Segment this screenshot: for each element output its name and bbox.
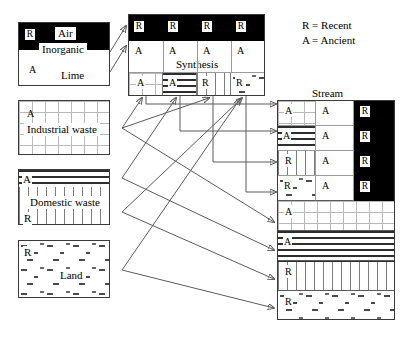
stream-upper-tag-1-2: A — [322, 106, 329, 116]
domestic-top-band — [19, 170, 109, 187]
stream-title: Stream — [312, 88, 343, 99]
synthesis-black-tag-4: R — [235, 20, 247, 33]
stream-upper-tag-2-2: A — [322, 131, 329, 141]
stream-lower-tag-3: R — [284, 265, 293, 278]
arrow-domestic-bottom-to-synthesis — [122, 98, 242, 212]
lime-label: Lime — [61, 70, 84, 81]
stream-box: A A R A A R R A R R A R A A R R — [277, 100, 395, 320]
arrow-syn1-to-stream1 — [146, 96, 276, 104]
air-tag-recent: R — [24, 28, 36, 41]
synthesis-divider-2 — [197, 41, 198, 73]
source-box-domestic-waste: A Domestic waste R — [18, 169, 110, 225]
source-box-air-lime: R Air Inorganic A Lime — [18, 22, 110, 86]
legend: R = Recent A = Ancient — [302, 18, 355, 48]
stream-lower-tag-2: A — [283, 235, 292, 248]
land-tag: R — [23, 246, 32, 259]
industrial-label: Industrial waste — [24, 123, 100, 136]
arrow-domestic-to-stream-lower2 — [122, 178, 274, 250]
air-label: Air — [55, 27, 76, 40]
arrow-domestic-top-to-synthesis — [122, 98, 176, 178]
synthesis-pattern-tag-1: A — [136, 76, 145, 89]
source-box-land: R Land — [18, 240, 110, 298]
arrow-land-to-stream-lower4 — [122, 270, 274, 308]
synthesis-pattern-cell-1 — [129, 73, 163, 95]
domestic-tag-top: A — [22, 173, 32, 186]
stream-upper-tag-3-3: R — [359, 155, 371, 168]
stream-lower-row-3 — [278, 261, 394, 291]
synthesis-box: R R R R A A A A Synthesis A A R R — [128, 14, 265, 96]
synthesis-pattern-tag-4: R — [235, 76, 244, 89]
synthesis-white-tag-2: A — [169, 46, 176, 56]
arrow-lime-to-synthesis-white — [110, 46, 126, 72]
stream-lower-row-1 — [278, 201, 394, 231]
arrow-industrial-to-stream-lower1 — [122, 128, 274, 222]
synthesis-pattern-tag-3: R — [201, 76, 210, 89]
synthesis-black-tag-3: R — [201, 20, 213, 33]
synthesis-divider-3 — [231, 41, 232, 73]
domestic-tag-bottom: R — [23, 212, 32, 225]
domestic-label: Domestic waste — [27, 196, 103, 209]
stream-upper-tag-1-3: R — [359, 105, 371, 118]
stream-upper-tag-1-1: A — [284, 104, 293, 117]
stream-upper-tag-3-2: A — [322, 156, 329, 166]
arrow-syn2-to-stream2 — [180, 96, 276, 131]
stream-lower-row-2 — [278, 231, 394, 261]
stream-upper-tag-4-2: A — [322, 181, 329, 191]
stream-lower-tag-1: A — [284, 205, 293, 218]
diagram-canvas: R Air Inorganic A Lime A Industrial wast… — [0, 0, 405, 341]
arrow-syn3-to-stream3 — [213, 96, 276, 162]
land-label: Land — [57, 269, 86, 282]
synthesis-pattern-tag-2: A — [168, 76, 177, 89]
arrow-industrial-to-synthesis — [122, 98, 142, 128]
inorganic-label: Inorganic — [39, 43, 87, 56]
lime-tag-ancient: A — [29, 65, 36, 75]
arrow-domestic-to-stream-lower3 — [122, 212, 274, 279]
arrow-syn4-to-stream4 — [246, 96, 276, 192]
arrow-land-to-synthesis — [122, 99, 240, 270]
arrow-air-to-synthesis-black — [110, 26, 126, 52]
stream-lower-row-4 — [278, 291, 394, 319]
source-box-industrial-waste: A Industrial waste — [18, 100, 110, 155]
stream-upper-tag-4-3: R — [359, 180, 371, 193]
synthesis-black-tag-2: R — [167, 20, 179, 33]
synthesis-white-tag-4: A — [237, 46, 244, 56]
synthesis-white-tag-3: A — [203, 46, 210, 56]
synthesis-black-tag-1: R — [133, 20, 145, 33]
stream-upper-tag-2-1: A — [282, 129, 291, 142]
synthesis-divider-1 — [163, 41, 164, 73]
stream-upper-tag-4-1: R — [283, 179, 292, 192]
stream-lower-tag-4: R — [284, 295, 293, 308]
industrial-tag: A — [27, 109, 34, 119]
synthesis-white-tag-1: A — [135, 46, 142, 56]
stream-upper-tag-3-1: R — [284, 154, 293, 167]
stream-upper-tag-2-3: R — [359, 130, 371, 143]
